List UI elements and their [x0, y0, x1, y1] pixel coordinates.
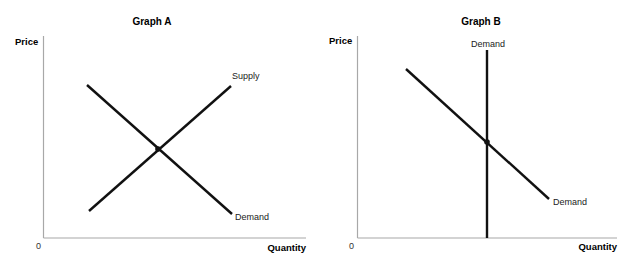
graph-b-intersection-point [484, 139, 490, 145]
chart-canvas: Graph A Price 0 Quantity Supply Demand G… [0, 0, 634, 266]
graph-b-title: Graph B [461, 16, 500, 27]
graph-b-sloped-demand-curve [406, 69, 549, 199]
graph-a-x-axis-label: Quantity [267, 242, 306, 253]
graph-b-origin-label: 0 [349, 241, 354, 251]
graph-a-origin-label: 0 [36, 241, 41, 251]
graph-a-demand-label: Demand [235, 212, 269, 222]
graph-b-x-axis-label: Quantity [578, 241, 617, 252]
graph-b: Graph B Price 0 Quantity Demand Demand [329, 16, 618, 252]
graph-a-supply-label: Supply [232, 71, 260, 81]
graph-b-y-axis-label: Price [329, 35, 352, 46]
graph-a: Graph A Price 0 Quantity Supply Demand [15, 16, 307, 253]
graph-a-equilibrium-point [155, 146, 161, 152]
graph-a-title: Graph A [132, 16, 171, 27]
graph-b-sloped-demand-label: Demand [553, 197, 587, 207]
graph-a-y-axis-label: Price [15, 36, 38, 47]
graph-b-vertical-demand-label: Demand [471, 39, 505, 49]
